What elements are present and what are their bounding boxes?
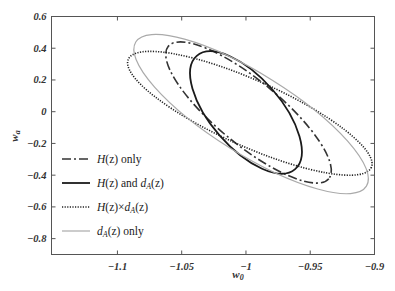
y-tick-label: −0.4: [27, 170, 47, 181]
legend-label: H(z) only: [96, 153, 142, 166]
ellipse-dotted: [115, 29, 385, 197]
x-tick-label: −1: [240, 261, 252, 272]
legend-label: H(z)×dA(z): [96, 201, 148, 215]
y-tick-label: −0.8: [27, 233, 47, 244]
y-tick-label: 0.2: [33, 74, 47, 85]
legend-label: H(z) and dA(z): [96, 177, 164, 191]
x-tick-label: −1.05: [169, 261, 194, 272]
y-axis-label: wa: [8, 130, 22, 141]
y-tick-label: −0.6: [27, 201, 47, 212]
y-tick-label: −0.2: [27, 138, 47, 149]
confidence-ellipse-chart: 0.60.40.20−0.2−0.4−0.6−0.8 −1.1−1.05−1−0…: [0, 0, 395, 291]
ellipse-solid: [170, 33, 321, 192]
x-tick-label: −0.9: [365, 261, 385, 272]
legend: H(z) onlyH(z) and dA(z)H(z)×dA(z)dA(z) o…: [62, 153, 164, 239]
y-tick-label: 0.6: [33, 11, 47, 22]
x-tick-label: −1.1: [108, 261, 128, 272]
x-tick-label: −0.95: [298, 261, 323, 272]
legend-label: dA(z) only: [97, 225, 144, 239]
x-axis-ticks: −1.1−1.05−1−0.95−0.9: [108, 17, 385, 272]
y-tick-label: 0.4: [33, 43, 46, 54]
y-tick-label: 0: [41, 106, 47, 117]
